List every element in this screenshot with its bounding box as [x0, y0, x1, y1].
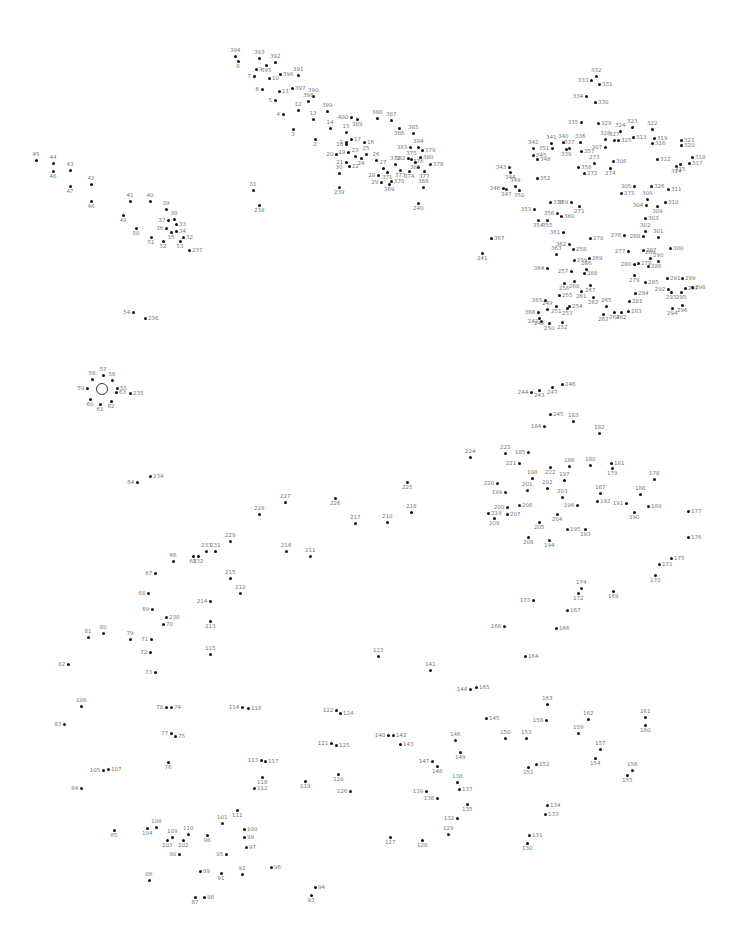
- dot-label: 311: [671, 186, 682, 192]
- dot-392: [274, 61, 277, 64]
- dot-70: [162, 623, 165, 626]
- dot-label: 293: [666, 294, 677, 300]
- dot-label: 196: [564, 502, 575, 508]
- dot-label: 254: [572, 303, 583, 309]
- dot-139: [425, 790, 428, 793]
- dot-label: 387: [386, 111, 397, 117]
- dot-122: [335, 709, 338, 712]
- dot-82: [67, 663, 70, 666]
- dot-label: 365: [532, 297, 543, 303]
- dot-label: 83: [54, 721, 61, 727]
- dot-label: 147: [419, 758, 430, 764]
- dot-label: 210: [382, 513, 393, 519]
- dot-label: 101: [217, 814, 228, 820]
- dot-18: [345, 143, 348, 146]
- dot-label: 48: [88, 203, 95, 209]
- dot-label: 201: [522, 481, 533, 487]
- dot-label: 298: [695, 284, 706, 290]
- dot-label: 214: [197, 598, 208, 604]
- dot-269: [588, 257, 591, 260]
- dot-label: 149: [455, 754, 466, 760]
- dot-13: [312, 118, 315, 121]
- dot-label: 375: [406, 150, 417, 156]
- dot-label: 300: [673, 245, 684, 251]
- dot-label: 231: [210, 542, 221, 548]
- dot-label: 72: [140, 649, 147, 655]
- dot-label: 305: [621, 183, 632, 189]
- dot-label: 280: [621, 261, 632, 267]
- dot-27: [382, 167, 385, 170]
- dot-label: 158: [533, 717, 544, 723]
- dot-label: 105: [90, 767, 101, 773]
- dot-label: 335: [568, 119, 579, 125]
- dot-label: 68: [138, 590, 145, 596]
- dot-label: 216: [281, 542, 292, 548]
- dot-label: 396: [283, 71, 294, 77]
- dot-label: 205: [534, 524, 545, 530]
- dot-255: [558, 294, 561, 297]
- dot-97: [245, 846, 248, 849]
- dot-150: [504, 737, 507, 740]
- dot-label: 135: [462, 806, 473, 812]
- dot-label: 129: [443, 825, 454, 831]
- dot-label: 154: [590, 760, 601, 766]
- dot-label: 10: [272, 75, 279, 81]
- dot-label: 20: [326, 151, 333, 157]
- dot-11: [278, 90, 281, 93]
- dot-label: 140: [375, 732, 386, 738]
- dot-label: 288: [630, 233, 641, 239]
- dot-label: 136: [424, 795, 435, 801]
- dot-label: 155: [622, 777, 633, 783]
- dot-label: 156: [627, 761, 638, 767]
- dot-label: 73: [145, 669, 152, 675]
- dot-label: 282: [616, 314, 627, 320]
- dot-label: 243: [534, 392, 545, 398]
- dot-96: [270, 866, 273, 869]
- dot-label: 339: [561, 151, 572, 157]
- dot-67: [154, 572, 157, 575]
- dot-label: 113: [248, 757, 259, 763]
- dot-label: 117: [268, 758, 279, 764]
- dot-label: 74: [174, 704, 181, 710]
- dot-359: [570, 201, 573, 204]
- dot-label: 63: [119, 389, 126, 395]
- dot-label: 247: [547, 389, 558, 395]
- dot-label: 222: [545, 469, 556, 475]
- dot-116: [247, 707, 250, 710]
- dot-label: 51: [148, 239, 155, 245]
- dot-181: [610, 462, 613, 465]
- dot-4: [282, 113, 285, 116]
- dot-177: [687, 510, 690, 513]
- dot-211: [309, 555, 312, 558]
- dot-label: 326: [654, 183, 665, 189]
- dot-191: [625, 502, 628, 505]
- dot-label: 36: [156, 225, 163, 231]
- dot-275: [620, 192, 623, 195]
- dot-label: 109: [167, 828, 178, 834]
- dot-label: 159: [573, 724, 584, 730]
- dot-6: [261, 88, 264, 91]
- dot-22: [348, 165, 351, 168]
- dot-label: 145: [489, 715, 500, 721]
- dot-label: 244: [518, 389, 529, 395]
- dot-68: [147, 592, 150, 595]
- dot-label: 166: [559, 625, 570, 631]
- dot-label: 163: [542, 695, 553, 701]
- dot-34: [175, 230, 178, 233]
- dot-89: [199, 870, 202, 873]
- dot-362: [568, 243, 571, 246]
- dot-301: [657, 236, 660, 239]
- dot-71: [150, 638, 153, 641]
- dot-333: [590, 79, 593, 82]
- dot-329: [597, 122, 600, 125]
- dot-29: [380, 181, 383, 184]
- dot-label: 301: [653, 228, 664, 234]
- dot-234: [149, 475, 152, 478]
- dot-label: 269: [592, 255, 603, 261]
- dot-358: [577, 166, 580, 169]
- dot-label: 79: [127, 630, 134, 636]
- dot-label: 161: [640, 708, 651, 714]
- dot-label: 383: [397, 144, 408, 150]
- dot-372: [394, 163, 397, 166]
- dot-109: [171, 836, 174, 839]
